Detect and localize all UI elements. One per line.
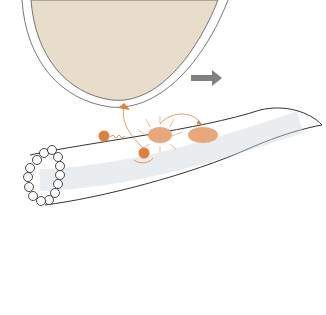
vesicle-top xyxy=(22,0,228,107)
kinesin-motor xyxy=(99,103,154,163)
plus-end-arrow-icon xyxy=(191,70,222,86)
motor-protein-diagram xyxy=(0,0,326,315)
microtubule xyxy=(24,108,323,206)
